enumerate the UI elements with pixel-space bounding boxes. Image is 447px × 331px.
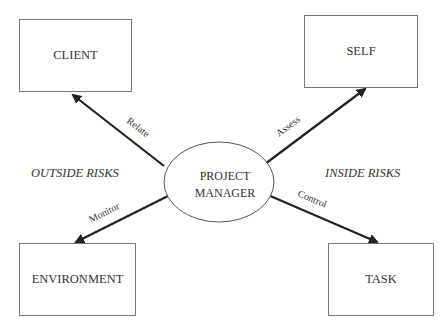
node-environment-label: ENVIRONMENT [32, 272, 124, 287]
inside-risks-label: INSIDE RISKS [325, 166, 400, 181]
node-client-label: CLIENT [53, 48, 97, 63]
edge-label-relate: Relate [125, 115, 152, 140]
edge-label-assess: Assess [274, 113, 302, 138]
outside-risks-label: OUTSIDE RISKS [31, 166, 119, 181]
node-task-label: TASK [365, 272, 397, 287]
node-self: SELF [304, 15, 418, 88]
node-task: TASK [328, 243, 434, 316]
edge-label-control: Control [296, 188, 329, 210]
center-label-line1: PROJECT [200, 169, 251, 183]
node-client: CLIENT [19, 19, 132, 92]
node-environment: ENVIRONMENT [19, 243, 136, 316]
node-self-label: SELF [346, 44, 375, 59]
center-label-line2: MANAGER [195, 186, 256, 200]
